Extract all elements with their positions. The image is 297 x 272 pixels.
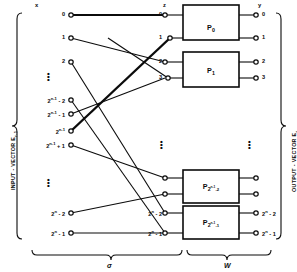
processor-boxes — [183, 5, 239, 239]
output-vector-text: OUTPUT - VECTOR E — [291, 132, 297, 192]
input-node-in3: 2n-1 - 2 — [48, 97, 65, 104]
output-header-label: y — [258, 3, 261, 9]
middle-header-label: z — [163, 3, 166, 9]
figure-canvas: x z y INPUT - VECTOR Er-1 OUTPUT - VECTO… — [0, 0, 297, 272]
processor-label-p0: P0 — [183, 24, 239, 34]
input-node-in8: 2n - 1 — [51, 230, 65, 237]
output-vector-side-label: OUTPUT - VECTOR Er — [292, 131, 297, 192]
processor-label-p1: P1 — [183, 67, 239, 77]
input-node-in5: 2n-1 — [56, 128, 65, 135]
output-node-y3: 3 — [262, 75, 265, 81]
processor-label-p2: P2n-1-2 — [183, 183, 239, 193]
output-node-y6: 2n - 2 — [262, 210, 276, 217]
input-vector-text: INPUT - VECTOR E — [10, 137, 16, 190]
w-brace — [187, 250, 271, 260]
input-ellipsis-top: ••• — [47, 72, 50, 81]
middle-node-z1: 1 — [159, 35, 162, 41]
middle-node-z3: 3 — [159, 75, 162, 81]
middle-node-z6: 2n - 2 — [148, 210, 162, 217]
input-node-in0: 0 — [62, 12, 65, 18]
middle-node-z2: 2 — [159, 59, 162, 65]
processor-output-stubs — [239, 15, 256, 233]
processor-input-stubs — [165, 15, 183, 233]
output-vector-subscript: r — [294, 131, 297, 133]
output-node-y2: 2 — [262, 59, 265, 65]
output-ellipsis: ••• — [248, 140, 251, 149]
input-node-in6: 2n-1 + 1 — [46, 142, 65, 149]
processor-label-p3: P2n-1-1 — [183, 219, 239, 229]
input-node-in7: 2n - 2 — [51, 210, 65, 217]
output-node-y0: 0 — [262, 12, 265, 18]
middle-node-z0: 0 — [159, 12, 162, 18]
right-brace — [276, 13, 286, 239]
input-ellipsis-middle: ••• — [47, 178, 50, 187]
input-vector-subscript: r-1 — [13, 131, 18, 137]
output-node-y1: 1 — [262, 35, 265, 41]
left-brace — [12, 13, 22, 239]
sigma-brace — [32, 250, 182, 260]
input-node-in2: 2 — [62, 59, 65, 65]
middle-ellipsis: ••• — [160, 140, 163, 149]
input-node-in1: 1 — [62, 35, 65, 41]
sigma-brace-label: σ — [107, 262, 112, 269]
middle-node-z7: 2n - 1 — [148, 230, 162, 237]
permutation-wires — [71, 15, 170, 233]
output-node-y7: 2n - 1 — [262, 230, 276, 237]
input-header-label: x — [35, 3, 38, 9]
input-node-in4: 2n-1 - 1 — [48, 111, 65, 118]
w-brace-label: W — [224, 262, 231, 269]
input-vector-side-label: INPUT - VECTOR Er-1 — [11, 131, 18, 190]
